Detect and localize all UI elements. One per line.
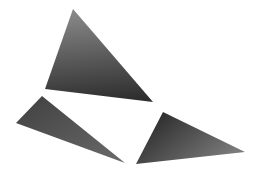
- bottom-left-triangle-shape: [16, 96, 125, 163]
- bottom-right-triangle-shape: [136, 112, 245, 164]
- triangles-canvas: [0, 0, 262, 179]
- top-triangle-shape: [45, 9, 153, 102]
- triangles-figure: [0, 0, 262, 179]
